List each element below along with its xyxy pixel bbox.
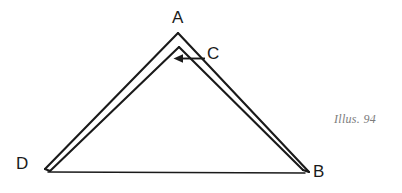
vertex-label-d: D	[16, 155, 28, 172]
outer-left-side	[45, 33, 178, 169]
inner-left-side	[50, 47, 179, 171]
vertex-label-c: C	[207, 45, 219, 62]
outer-right-side	[178, 33, 309, 172]
figure-caption: Illus. 94	[334, 112, 376, 127]
pointer-arrow-head	[174, 54, 184, 63]
base-line	[48, 172, 305, 173]
geometry-diagram	[0, 0, 402, 193]
inner-right-side	[179, 47, 303, 170]
vertex-label-b: B	[313, 163, 325, 180]
vertex-label-a: A	[172, 9, 184, 26]
illustration-figure: A C D B Illus. 94	[0, 0, 402, 193]
fold-cap-left	[45, 169, 50, 171]
